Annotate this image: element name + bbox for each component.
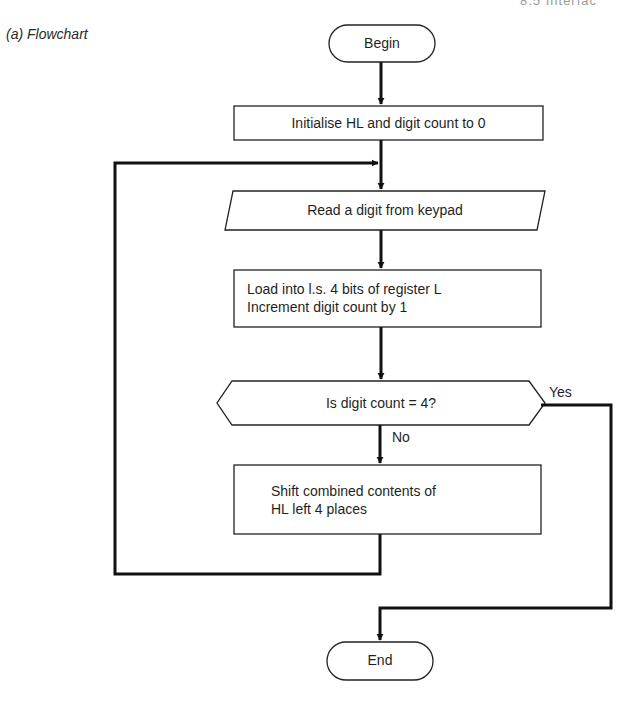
shift-label-line-1: Shift combined contents of bbox=[271, 482, 436, 500]
begin-label: Begin bbox=[329, 34, 435, 52]
flowchart-canvas bbox=[0, 0, 642, 706]
init-label: Initialise HL and digit count to 0 bbox=[234, 114, 543, 132]
load-label-line-2: Increment digit count by 1 bbox=[247, 298, 407, 316]
yes-branch-label: Yes bbox=[549, 384, 572, 400]
decision-label: Is digit count = 4? bbox=[217, 394, 545, 412]
end-label: End bbox=[327, 651, 433, 669]
no-branch-label: No bbox=[392, 429, 410, 445]
shift-label-line-2: HL left 4 places bbox=[271, 500, 367, 518]
read-label: Read a digit from keypad bbox=[229, 201, 541, 219]
load-label-line-1: Load into l.s. 4 bits of register L bbox=[247, 280, 442, 298]
